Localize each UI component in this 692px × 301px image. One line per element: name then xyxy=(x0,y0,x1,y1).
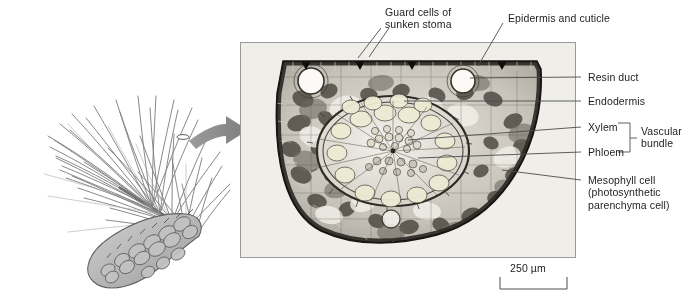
resin-duct-bottom xyxy=(382,210,400,228)
label-mesophyll-line3: parenchyma cell) xyxy=(588,199,670,211)
label-vascular-bundle-line2: bundle xyxy=(641,137,673,149)
branch-stem xyxy=(120,188,197,235)
needle-cross-section-micrograph xyxy=(240,42,576,258)
label-mesophyll-cell: Mesophyll cell(photosyntheticparenchyma … xyxy=(588,174,670,211)
label-endodermis: Endodermis xyxy=(588,95,645,107)
pine-cone xyxy=(88,209,201,288)
resin-duct-right xyxy=(447,65,479,97)
resin-duct-left xyxy=(294,64,328,98)
label-guard-cells-line1: Guard cells of xyxy=(385,6,451,18)
label-phloem: Phloem xyxy=(588,146,624,158)
scale-bar-label: 250 µm xyxy=(510,262,546,274)
label-guard-cells-line2: sunken stoma xyxy=(385,18,452,30)
scale-bar xyxy=(500,277,567,289)
label-mesophyll-line1: Mesophyll cell xyxy=(588,174,655,186)
pine-needles-shading xyxy=(44,124,186,232)
label-vascular-bundle-line1: Vascular xyxy=(641,125,682,137)
label-xylem: Xylem xyxy=(588,121,618,133)
micrograph-content xyxy=(241,43,576,258)
label-mesophyll-line2: (photosynthetic xyxy=(588,186,661,198)
figure-pine-needle-anatomy: Guard cells ofsunken stoma Epidermis and… xyxy=(0,0,692,301)
label-vascular-bundle: Vascularbundle xyxy=(641,125,682,150)
section-site-marker xyxy=(177,135,189,140)
label-resin-duct: Resin duct xyxy=(588,71,639,83)
label-guard-cells: Guard cells ofsunken stoma xyxy=(385,6,452,31)
pine-needles xyxy=(48,96,230,252)
label-epidermis-cuticle: Epidermis and cuticle xyxy=(508,12,610,24)
